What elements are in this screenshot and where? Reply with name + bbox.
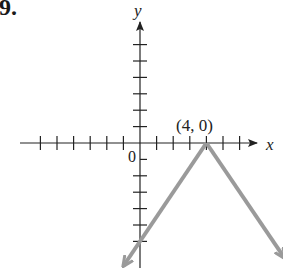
coordinate-plane: x y 0 (4, 0) [0, 0, 283, 275]
origin-label: 0 [128, 148, 136, 165]
point-label: (4, 0) [176, 116, 213, 135]
graph-lines [123, 143, 283, 266]
x-axis-label: x [265, 135, 274, 154]
y-axis-label: y [132, 1, 142, 20]
graph-line [206, 143, 283, 258]
